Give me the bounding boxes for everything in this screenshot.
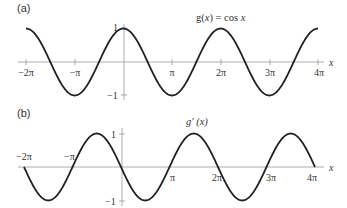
x-tick-label: 3π	[266, 172, 276, 183]
y-tick-label-neg1: −1	[107, 90, 118, 101]
x-tick-label: π	[169, 67, 174, 78]
x-tick-label: 3π	[265, 67, 275, 78]
x-tick-label: 4π	[307, 172, 317, 183]
panel-b-label: (b)	[17, 107, 30, 119]
panel-b-title: g′ (x)	[186, 116, 208, 128]
y-tick-label-neg1: −1	[105, 196, 116, 207]
x-tick-label: −2π	[16, 151, 32, 162]
x-tick-label: −2π	[18, 67, 34, 78]
x-tick-label: −π	[70, 67, 81, 78]
x-axis-label: x	[328, 162, 334, 173]
panel-b: (b) g′ (x) 1 −1 −2π −π π 2π 3π 4π x	[16, 107, 334, 207]
y-tick-label-1: 1	[111, 129, 116, 140]
x-tick-label: 2π	[216, 67, 226, 78]
x-tick-label: π	[170, 172, 175, 183]
figure: (a) g(x) = cos x 1 −1 −2π −π π 2π 3π 4π …	[0, 0, 347, 208]
x-axis-label: x	[328, 57, 334, 68]
panel-a-label: (a)	[17, 2, 30, 14]
panel-a-title: g(x) = cos x	[196, 12, 246, 24]
x-tick-label: −π	[64, 151, 75, 162]
x-tick-label: 4π	[314, 67, 324, 78]
panel-a: (a) g(x) = cos x 1 −1 −2π −π π 2π 3π 4π …	[17, 2, 334, 101]
